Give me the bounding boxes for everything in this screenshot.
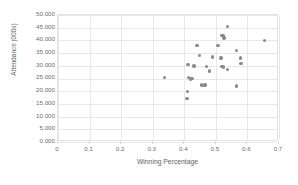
x-tick-mark (183, 141, 184, 144)
scatter-point (222, 36, 225, 39)
x-axis-title: Winning Percentage (57, 158, 278, 165)
gridline-horizontal (58, 53, 277, 54)
x-tick-label: 0.5 (203, 146, 227, 152)
scatter-point (235, 84, 238, 87)
gridline-horizontal (58, 91, 277, 92)
x-tick-label: 0 (45, 146, 69, 152)
scatter-point (219, 56, 222, 59)
y-axis-title: Attendance (000s) (10, 17, 17, 83)
scatter-point (185, 97, 188, 100)
scatter-point (239, 56, 242, 59)
y-tick-label: 0.000 (9, 138, 55, 144)
gridline-vertical (216, 15, 217, 140)
scatter-point (198, 54, 201, 57)
gridline-vertical (279, 15, 280, 140)
gridline-horizontal (58, 129, 277, 130)
scatter-point (216, 44, 219, 47)
scatter-point (226, 68, 229, 71)
gridline-horizontal (58, 142, 277, 143)
x-axis-tick-labels: 00.10.20.30.40.50.60.7 (0, 146, 298, 156)
gridline-vertical (121, 15, 122, 140)
scatter-point (190, 77, 193, 80)
gridline-horizontal (58, 117, 277, 118)
x-tick-mark (215, 141, 216, 144)
y-tick-label: 20.000 (9, 87, 55, 93)
scatter-point (211, 55, 214, 58)
gridline-horizontal (58, 15, 277, 16)
x-tick-mark (278, 141, 279, 144)
gridline-horizontal (58, 66, 277, 67)
scatter-point (239, 62, 242, 65)
x-tick-mark (246, 141, 247, 144)
scatter-point (195, 44, 198, 47)
scatter-point (192, 64, 195, 67)
gridline-vertical (58, 15, 59, 140)
gridline-horizontal (58, 28, 277, 29)
scatter-point (203, 83, 206, 86)
gridline-horizontal (58, 104, 277, 105)
gridline-vertical (90, 15, 91, 140)
gridline-horizontal (58, 79, 277, 80)
x-tick-mark (152, 141, 153, 144)
y-tick-label: 15.000 (9, 100, 55, 106)
y-tick-label: 10.000 (9, 113, 55, 119)
scatter-chart-figure: 0.0005.00010.00015.00020.00025.00030.000… (0, 0, 298, 185)
y-tick-label: 5.000 (9, 125, 55, 131)
gridline-vertical (184, 15, 185, 140)
x-tick-label: 0.1 (77, 146, 101, 152)
scatter-point (186, 90, 189, 93)
x-tick-label: 0.4 (171, 146, 195, 152)
gridline-vertical (247, 15, 248, 140)
x-tick-label: 0.7 (266, 146, 290, 152)
x-tick-mark (57, 141, 58, 144)
plot-area (57, 14, 278, 141)
y-axis-tick-labels: 0.0005.00010.00015.00020.00025.00030.000… (0, 0, 55, 185)
gridline-horizontal (58, 40, 277, 41)
x-tick-mark (120, 141, 121, 144)
gridline-vertical (153, 15, 154, 140)
x-tick-label: 0.6 (234, 146, 258, 152)
scatter-point (235, 49, 238, 52)
scatter-point (186, 63, 189, 66)
scatter-point (208, 69, 211, 72)
x-tick-label: 0.2 (108, 146, 132, 152)
scatter-point (205, 65, 208, 68)
x-tick-mark (89, 141, 90, 144)
scatter-point (263, 39, 266, 42)
x-tick-label: 0.3 (140, 146, 164, 152)
scatter-point (222, 65, 225, 68)
